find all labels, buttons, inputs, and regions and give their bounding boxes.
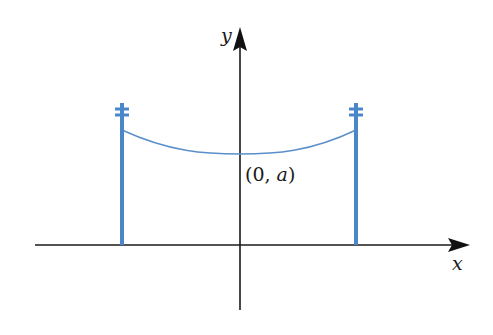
left-pole bbox=[115, 103, 129, 245]
cable-curve bbox=[122, 130, 356, 154]
vertex-label-close: ) bbox=[288, 163, 295, 185]
catenary-diagram: y x (0, a) bbox=[0, 0, 493, 335]
right-pole bbox=[349, 103, 363, 245]
x-axis bbox=[35, 238, 470, 252]
x-axis-label: x bbox=[452, 252, 463, 274]
vertex-label-open: (0, bbox=[245, 163, 277, 185]
vertex-point-label: (0, a) bbox=[245, 163, 295, 185]
vertex-label-var: a bbox=[277, 163, 288, 185]
y-axis-label: y bbox=[220, 24, 232, 46]
